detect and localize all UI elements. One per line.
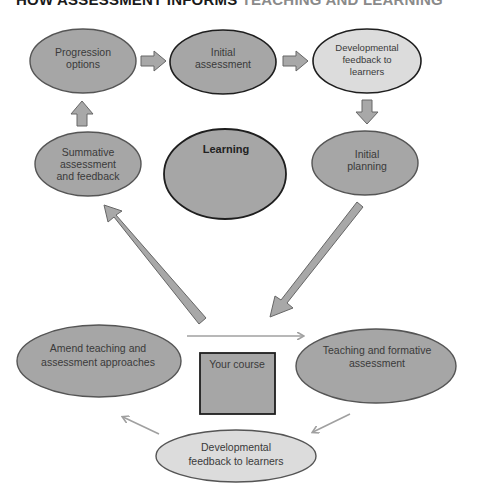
node-amend-teaching: Amend teaching and assessment approaches <box>17 325 181 397</box>
block-arrow-down <box>356 100 378 124</box>
svg-text:assessment: assessment <box>60 158 116 170</box>
svg-text:learners: learners <box>350 66 385 77</box>
block-arrow-right-2 <box>283 51 308 71</box>
svg-text:options: options <box>66 58 100 70</box>
thin-arrow-to-amend <box>123 417 159 434</box>
svg-text:Learning: Learning <box>203 143 249 155</box>
block-arrow-right-1 <box>141 51 166 71</box>
svg-text:Progression: Progression <box>55 46 111 58</box>
svg-text:Developmental: Developmental <box>335 42 398 53</box>
long-arrow-from-planning <box>270 202 363 317</box>
node-initial-planning: Initial planning <box>312 131 418 195</box>
svg-text:assessment: assessment <box>349 357 405 369</box>
svg-text:Your course: Your course <box>209 358 265 370</box>
node-progression-options: Progression options <box>30 29 136 93</box>
svg-text:assessment approaches: assessment approaches <box>41 356 155 368</box>
node-teaching-formative: Teaching and formative assessment <box>296 329 456 403</box>
svg-text:Amend teaching and: Amend teaching and <box>50 342 146 354</box>
node-summative-assessment: Summative assessment and feedback <box>35 132 141 196</box>
svg-text:Summative: Summative <box>62 146 115 158</box>
svg-text:Initial: Initial <box>355 148 380 160</box>
thin-arrow-to-dev-feedback <box>313 414 350 432</box>
node-your-course: Your course <box>200 353 275 414</box>
long-arrow-to-summative <box>104 205 206 324</box>
svg-text:and feedback: and feedback <box>56 170 120 182</box>
node-developmental-feedback-bottom: Developmental feedback to learners <box>156 430 316 482</box>
node-initial-assessment: Initial assessment <box>170 30 276 94</box>
assessment-cycle-diagram: Progression options Initial assessment D… <box>0 0 482 502</box>
node-developmental-feedback-top: Developmental feedback to learners <box>313 29 421 93</box>
svg-text:Developmental: Developmental <box>201 441 271 453</box>
svg-text:assessment: assessment <box>195 58 251 70</box>
svg-text:feedback to: feedback to <box>342 54 391 65</box>
svg-text:planning: planning <box>347 160 387 172</box>
svg-text:Teaching and formative: Teaching and formative <box>323 344 432 356</box>
svg-text:feedback to learners: feedback to learners <box>188 455 283 467</box>
svg-text:Initial: Initial <box>211 46 236 58</box>
node-learning: Learning <box>164 129 286 219</box>
block-arrow-up <box>71 101 93 126</box>
